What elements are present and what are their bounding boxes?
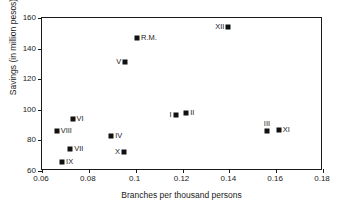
data-point-marker	[122, 150, 127, 155]
data-point-marker	[173, 112, 178, 117]
data-point-label: I	[170, 111, 172, 119]
scatter-plot-figure: Savings (in million pesos) Branches per …	[0, 0, 345, 209]
x-axis-tick	[89, 169, 90, 173]
data-point-marker	[135, 36, 140, 41]
data-point-marker	[123, 60, 128, 65]
y-axis-tick	[38, 18, 42, 19]
x-axis-tick-label: 0.16	[267, 174, 283, 183]
data-point-marker	[276, 128, 281, 133]
y-axis-tick-label: 100	[23, 104, 36, 113]
x-axis-tick-label: 0.08	[80, 174, 96, 183]
data-point-marker	[60, 159, 65, 164]
data-point-label: VIII	[61, 127, 72, 135]
y-axis-tick	[38, 140, 42, 141]
data-point-label: X	[115, 149, 120, 157]
x-axis-tick	[183, 169, 184, 173]
x-axis-tick-label: 0.14	[221, 174, 237, 183]
x-axis-tick	[229, 169, 230, 173]
x-axis-tick	[136, 169, 137, 173]
data-point-marker	[54, 128, 59, 133]
data-point-marker	[264, 128, 269, 133]
data-point-label: IX	[66, 158, 73, 166]
data-point-label: XI	[283, 126, 290, 134]
data-point-label: II	[190, 109, 194, 117]
x-axis-tick	[323, 169, 324, 173]
y-axis-tick	[38, 171, 42, 172]
x-axis-title: Branches per thousand persons	[41, 190, 322, 200]
data-point-marker	[109, 133, 114, 138]
y-axis-tick-label: 60	[27, 166, 36, 175]
data-point-marker	[70, 116, 75, 121]
x-axis-tick-label: 0.1	[129, 174, 140, 183]
y-axis-tick-label: 140	[23, 43, 36, 52]
y-axis-tick	[38, 110, 42, 111]
y-axis-tick	[38, 79, 42, 80]
data-point-label: V	[116, 58, 121, 66]
data-point-label: VII	[74, 145, 83, 153]
data-point-marker	[184, 110, 189, 115]
data-point-marker	[68, 146, 73, 151]
y-axis-tick-label: 120	[23, 74, 36, 83]
x-axis-tick	[276, 169, 277, 173]
x-axis-tick	[42, 169, 43, 173]
x-axis-tick-label: 0.06	[33, 174, 49, 183]
y-axis-title: Savings (in million pesos)	[8, 0, 18, 112]
data-point-label: XII	[215, 23, 224, 31]
data-point-label: VI	[77, 115, 84, 123]
y-axis-tick-label: 160	[23, 13, 36, 22]
data-point-label: III	[264, 119, 270, 127]
data-point-label: R.M.	[141, 35, 157, 43]
x-axis-tick-label: 0.12	[174, 174, 190, 183]
y-axis-tick-label: 80	[27, 135, 36, 144]
x-axis-tick-label: 0.18	[314, 174, 330, 183]
data-point-marker	[226, 24, 231, 29]
data-point-label: IV	[115, 132, 122, 140]
y-axis-tick	[38, 49, 42, 50]
